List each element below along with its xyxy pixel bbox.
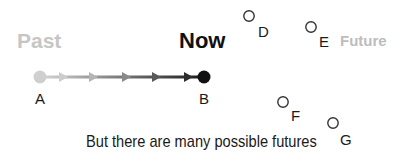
future-f-circle [278, 97, 288, 107]
point-b-circle [198, 71, 211, 84]
arrow-icon [122, 72, 131, 82]
future-d-circle [244, 11, 254, 21]
caption: But there are many possible futures [86, 133, 317, 150]
future-e-circle [306, 22, 316, 32]
future-g-circle [328, 118, 338, 128]
arrow-icon [59, 72, 68, 82]
future-e-label: E [319, 34, 329, 49]
arrow-icon [184, 72, 193, 82]
arrow-icon [152, 72, 161, 82]
point-b-label: B [199, 91, 209, 106]
future-d-label: D [258, 24, 269, 39]
arrow-icon [89, 72, 98, 82]
point-a-label: A [35, 91, 45, 106]
future-g-label: G [340, 132, 352, 147]
point-a-circle [34, 71, 47, 84]
future-f-label: F [291, 108, 300, 123]
